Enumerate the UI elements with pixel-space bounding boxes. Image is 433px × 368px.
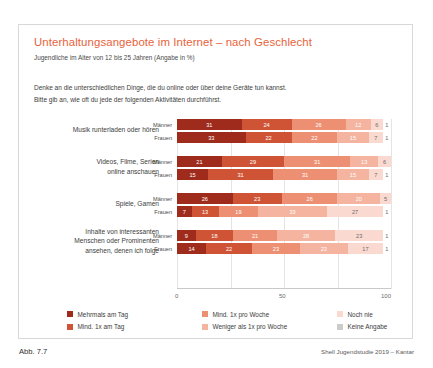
bar-segment: 31 <box>284 156 350 167</box>
bar-segment: 23 <box>233 193 282 204</box>
legend-swatch <box>202 324 208 330</box>
figure-number: Abb. 7.7 <box>19 347 47 356</box>
legend-swatch <box>337 324 343 330</box>
chart-card: Unterhaltungsangebote im Internet – nach… <box>18 24 413 339</box>
bar-segment: 1 <box>383 243 391 254</box>
bar-segment: 26 <box>292 119 346 130</box>
bar-segment: 18 <box>196 230 233 241</box>
bar-segment: 13 <box>350 156 378 167</box>
bar-segment: 13 <box>192 206 219 217</box>
question-line-1: Denke an die unterschiedlichen Dinge, di… <box>34 84 287 91</box>
category-label: Musik runterladen oder hören <box>41 125 159 135</box>
category-label: Videos, Filme, Serienonline anschauen <box>41 157 159 176</box>
bar-segment: 29 <box>222 156 284 167</box>
category-label-line: Videos, Filme, Serien <box>41 157 159 167</box>
bar-segment: 23 <box>300 243 348 254</box>
bar-segment: 12 <box>346 119 371 130</box>
category-label-line: ansehen, denen ich folge <box>41 246 159 256</box>
gridline <box>391 119 392 289</box>
legend-item[interactable]: Keine Angabe <box>337 322 387 333</box>
bar-segment: 22 <box>246 132 292 143</box>
legend-item[interactable]: Noch nie <box>337 309 387 320</box>
legend-item[interactable]: Weniger als 1x pro Woche <box>202 322 287 333</box>
x-tick-label: 100 <box>381 293 391 299</box>
bar-segment: 7 <box>369 169 384 180</box>
stacked-bar: 212931136 <box>177 156 391 167</box>
bar-segment: 23 <box>252 243 300 254</box>
stacked-bar: 7131933271 <box>177 206 391 217</box>
legend-label: Noch nie <box>348 311 373 318</box>
category-label-line: Inhalte von interessanten <box>41 227 159 237</box>
bar-segment: 28 <box>277 230 335 241</box>
bar-segment: 21 <box>177 156 222 167</box>
bar-row: 262326205Männer <box>177 193 391 204</box>
chart-subtitle: Jugendliche im Alter von 12 bis 25 Jahre… <box>34 54 195 61</box>
bar-segment: 5 <box>380 193 391 204</box>
bar-segment: 24 <box>242 119 292 130</box>
legend-swatch <box>67 324 73 330</box>
gridline <box>231 119 232 289</box>
bar-segment: 14 <box>177 243 206 254</box>
bar-row: 3322221571Frauen <box>177 132 391 143</box>
bar-segment: 26 <box>177 193 233 204</box>
legend-swatch <box>202 311 208 317</box>
bar-segment: 6 <box>371 119 383 130</box>
question-line-2: Bitte gib an, wie oft du jede der folgen… <box>34 96 221 103</box>
figure-page: Unterhaltungsangebote im Internet – nach… <box>0 0 433 368</box>
bar-segment: 33 <box>258 206 327 217</box>
gridline <box>177 119 178 289</box>
legend-swatch <box>67 311 73 317</box>
legend-label: Keine Angabe <box>348 323 388 330</box>
bar-segment: 17 <box>348 243 383 254</box>
bar-row: 3124261261Männer <box>177 119 391 130</box>
bar-segment: 1 <box>383 119 391 130</box>
stacked-bar: 3322221571 <box>177 132 391 143</box>
bar-segment: 15 <box>337 169 368 180</box>
category-label-line: Musik runterladen oder hören <box>41 125 159 135</box>
bar-segment: 22 <box>292 132 338 143</box>
category-label: Inhalte von interessantenMenschen oder P… <box>41 227 159 256</box>
bar-segment: 31 <box>208 169 273 180</box>
stacked-bar: 9182128231 <box>177 230 391 241</box>
bar-segment: 19 <box>219 206 259 217</box>
category-label-line: online anschauen <box>41 167 159 177</box>
bar-row: 7131933271Frauen <box>177 206 391 217</box>
bar-row: 212931136Männer <box>177 156 391 167</box>
legend-item[interactable]: Mind. 1x pro Woche <box>202 309 287 320</box>
legend-item[interactable]: Mind. 1x am Tag <box>67 322 128 333</box>
legend-label: Mind. 1x am Tag <box>78 323 125 330</box>
gridline <box>338 119 339 289</box>
stacked-bar: 262326205 <box>177 193 391 204</box>
x-tick-label: 50 <box>279 293 286 299</box>
bar-row: 9182128231Männer <box>177 230 391 241</box>
legend-column: Mind. 1x pro WocheWeniger als 1x pro Woc… <box>202 309 287 334</box>
bar-segment: 22 <box>206 243 252 254</box>
bar-segment: 9 <box>177 230 196 241</box>
x-tick-label: 0 <box>175 293 178 299</box>
stacked-bar: 3124261261 <box>177 119 391 130</box>
legend-label: Weniger als 1x pro Woche <box>213 323 288 330</box>
legend-item[interactable]: Mehrmals am Tag <box>67 309 128 320</box>
bar-segment: 21 <box>233 230 277 241</box>
bar-segment: 23 <box>335 230 383 241</box>
bar-segment: 7 <box>177 206 192 217</box>
gridline <box>284 119 285 289</box>
legend-swatch <box>337 311 343 317</box>
bar-segment: 1 <box>383 132 391 143</box>
legend-column: Mehrmals am TagMind. 1x am Tag <box>67 309 128 334</box>
category-label-line: Menschen oder Prominenten <box>41 236 159 246</box>
category-label-line: Spiele, Gamen <box>41 199 159 209</box>
bar-segment: 15 <box>177 169 208 180</box>
legend-label: Mind. 1x pro Woche <box>213 311 270 318</box>
legend-column: Noch nieKeine Angabe <box>337 309 387 334</box>
bar-segment: 1 <box>383 230 391 241</box>
stacked-bar: 14222323171 <box>177 243 391 254</box>
bar-segment: 31 <box>177 119 242 130</box>
category-label: Spiele, Gamen <box>41 199 159 209</box>
bar-segment: 27 <box>327 206 383 217</box>
source-note: Shell Jugendstudie 2019 – Kantar <box>321 348 414 355</box>
x-axis-line <box>177 288 391 289</box>
bar-row: 1531311571Frauen <box>177 169 391 180</box>
stacked-bar: 1531311571 <box>177 169 391 180</box>
bar-segment: 31 <box>273 169 338 180</box>
